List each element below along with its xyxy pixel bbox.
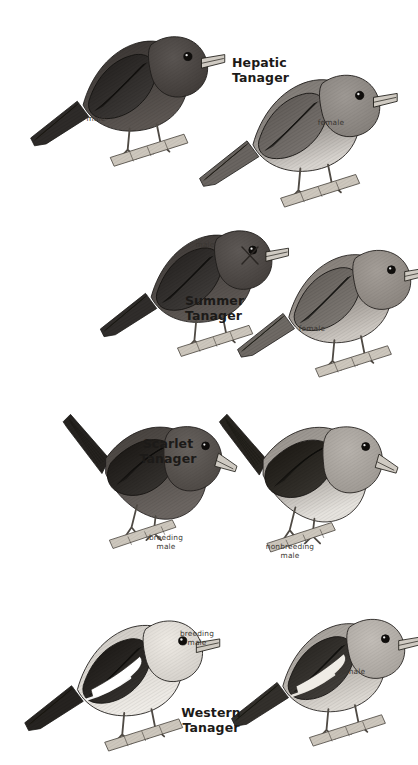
plumage-annotation-hepatic-male: male (66, 114, 126, 123)
species-name-hepatic-tanager: Hepatic Tanager (232, 56, 289, 86)
species-name-scarlet-tanager: Scarlet Tanager (123, 437, 213, 467)
species-name-western-tanager: Western Tanager (166, 706, 256, 736)
species-name-summer-tanager: Summer Tanager (185, 294, 244, 324)
plumage-annotation-summer-female: female (282, 324, 342, 333)
plumage-annotation-western-breeding-male: breeding male (167, 629, 227, 648)
plumage-annotation-scarlet-nonbreeding-male: nonbreeding male (260, 542, 320, 561)
bird-illustration-scarlet-nonbreeding-male (208, 392, 398, 560)
plumage-annotation-scarlet-breeding-male: breeding male (136, 533, 196, 552)
plumage-annotation-western-female: female (322, 667, 382, 676)
leader-x-mark (240, 245, 260, 269)
plumage-annotation-hepatic-female: female (301, 118, 361, 127)
plumage-annotation-summer-male: male (175, 240, 235, 249)
